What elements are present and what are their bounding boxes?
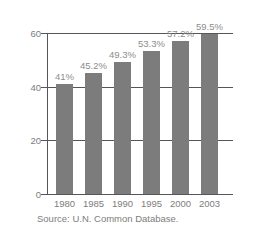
bar-value-label: 49.3%: [109, 50, 136, 60]
bar-slot: 53.3%: [143, 19, 160, 194]
bar[interactable]: [172, 41, 189, 194]
x-axis-line: [47, 194, 233, 195]
y-axis-tick-label: 40: [19, 83, 41, 93]
bar[interactable]: [143, 51, 160, 194]
y-axis-line: [47, 33, 48, 195]
bar-slot: 41%: [56, 19, 73, 194]
bar-slot: 59.5%: [201, 19, 218, 194]
bar-value-label: 45.2%: [80, 61, 107, 71]
x-axis-tick-group: 198019851990199520002003: [47, 198, 233, 212]
bar[interactable]: [85, 73, 102, 194]
bar[interactable]: [201, 34, 218, 194]
source-caption: Source: U.N. Common Database.: [37, 213, 179, 224]
bar-value-label: 41%: [55, 72, 74, 82]
bar-value-label: 59.5%: [196, 22, 223, 32]
bar-slot: 49.3%: [114, 19, 131, 194]
bar-value-label: 57.2%: [167, 29, 194, 39]
bar-slot: 57.2%: [172, 19, 189, 194]
bar[interactable]: [56, 84, 73, 194]
bar-slot: 45.2%: [85, 19, 102, 194]
plot-area: 41%45.2%49.3%53.3%57.2%59.5%: [47, 20, 233, 195]
y-axis-tick-label: 60: [19, 29, 41, 39]
bar-chart-figure: PERCENTAGE OF LITERATE 0204060 41%45.2%4…: [0, 0, 253, 229]
y-axis-tick-group: 0204060: [17, 20, 41, 195]
bar-value-label: 53.3%: [138, 39, 165, 49]
x-axis-tick-label: 2003: [193, 198, 227, 209]
bar[interactable]: [114, 62, 131, 194]
y-axis-tick-label: 20: [19, 136, 41, 146]
y-axis-tick-label: 0: [19, 190, 41, 200]
